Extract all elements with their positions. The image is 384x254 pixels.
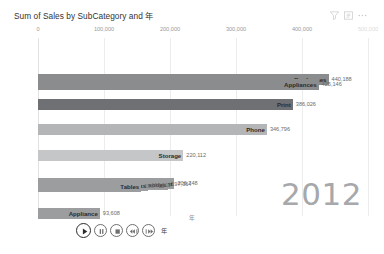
- bar-value-label: 156,411: [144, 184, 164, 190]
- bar-phone[interactable]: [38, 124, 267, 135]
- bar-value-label: 386,026: [296, 102, 316, 108]
- page-title: Sum of Sales by SubCategory and 年: [14, 9, 153, 21]
- next-button[interactable]: [142, 224, 155, 237]
- bar-category-label: Appliances: [284, 82, 317, 88]
- x-axis-tick-4: 400,000: [292, 26, 312, 32]
- year-watermark: 2012: [281, 179, 362, 210]
- visual-header: Sum of Sales by SubCategory and 年: [8, 6, 376, 26]
- bar-appliances[interactable]: [38, 79, 319, 90]
- x-axis-tick-1: 100,000: [94, 26, 114, 32]
- filter-icon[interactable]: [329, 10, 340, 21]
- x-axis-tick-0: 0: [36, 26, 39, 32]
- play-button[interactable]: [76, 223, 91, 238]
- category-axis-title: 年: [8, 214, 376, 222]
- bar-chart-race-visual: Sum of Sales by SubCategory and 年 0100,0…: [8, 6, 376, 244]
- bar-value-label: 425,146: [322, 82, 342, 88]
- bar-print[interactable]: [38, 99, 293, 110]
- pause-button[interactable]: [94, 224, 107, 237]
- bar-row[interactable]: Phone346,796: [8, 124, 376, 135]
- more-options-icon[interactable]: [357, 10, 368, 21]
- x-axis-tick-3: 300,000: [226, 26, 246, 32]
- x-axis-tick-5: 500,000: [358, 26, 378, 32]
- plot-area: 0100,000200,000300,000400,000500,000 Boo…: [8, 26, 376, 216]
- bar-value-label: 346,796: [270, 127, 290, 133]
- playback-field-label: 年: [161, 226, 167, 235]
- x-axis-tick-2: 200,000: [160, 26, 180, 32]
- playback-controls: 年: [76, 223, 167, 238]
- bar-row[interactable]: Print386,026: [8, 99, 376, 110]
- bar-category-label: Tables: [120, 184, 139, 190]
- playback-bar: 年: [8, 222, 376, 244]
- bar-category-label: Phone: [246, 127, 265, 133]
- stop-button[interactable]: [110, 224, 123, 237]
- focus-mode-icon[interactable]: [343, 10, 354, 21]
- x-axis-tick-labels: 0100,000200,000300,000400,000500,000: [8, 26, 376, 38]
- bar-row[interactable]: Storage220,112: [8, 150, 376, 161]
- bar-category-label: Print: [277, 102, 291, 108]
- bar-value-label: 220,112: [186, 153, 206, 159]
- previous-button[interactable]: [126, 224, 139, 237]
- bar-category-label: Storage: [159, 153, 182, 159]
- bar-row[interactable]: Appliances425,146: [8, 79, 376, 90]
